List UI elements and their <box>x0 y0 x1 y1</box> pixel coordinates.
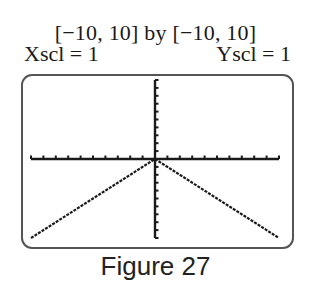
graph-plot <box>0 0 311 285</box>
figure-caption: Figure 27 <box>0 251 311 281</box>
